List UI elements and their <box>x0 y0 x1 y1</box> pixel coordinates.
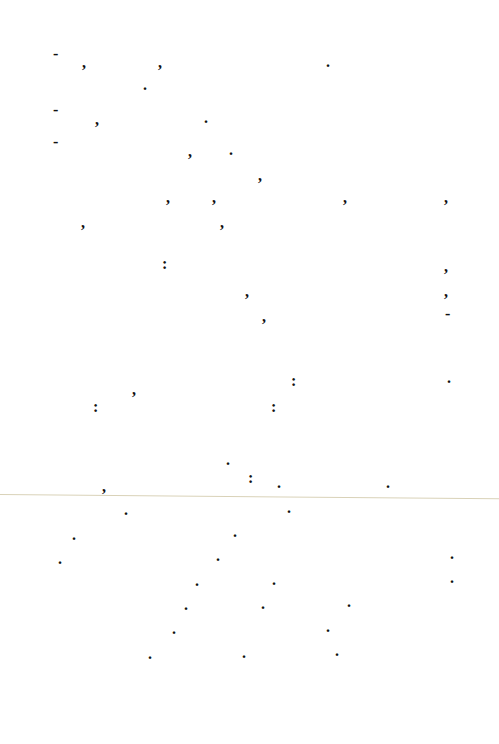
punctuation-mark: , <box>81 215 85 231</box>
punctuation-mark: . <box>287 500 291 516</box>
punctuation-mark: , <box>262 309 266 325</box>
punctuation-mark: : <box>291 373 296 389</box>
punctuation-mark: . <box>272 572 276 588</box>
punctuation-mark: . <box>143 77 147 93</box>
punctuation-mark: , <box>102 479 106 495</box>
punctuation-mark: , <box>220 215 224 231</box>
punctuation-mark: . <box>195 573 199 589</box>
punctuation-mark: . <box>204 110 208 126</box>
punctuation-mark: , <box>95 112 99 128</box>
punctuation-mark: - <box>53 102 58 118</box>
punctuation-mark: . <box>326 54 330 70</box>
punctuation-mark: . <box>184 597 188 613</box>
punctuation-mark: : <box>93 399 98 415</box>
punctuation-mark: , <box>212 190 216 206</box>
punctuation-mark: . <box>347 594 351 610</box>
punctuation-mark: , <box>258 168 262 184</box>
horizontal-rule <box>0 494 499 499</box>
punctuation-mark: , <box>444 190 448 206</box>
punctuation-mark: . <box>335 643 339 659</box>
punctuation-mark: , <box>444 259 448 275</box>
punctuation-mark: . <box>233 524 237 540</box>
punctuation-mark: . <box>261 596 265 612</box>
punctuation-mark: , <box>166 190 170 206</box>
punctuation-mark: , <box>444 284 448 300</box>
punctuation-mark: : <box>271 399 276 415</box>
punctuation-mark: - <box>445 306 450 322</box>
punctuation-mark: . <box>226 452 230 468</box>
punctuation-mark: . <box>148 646 152 662</box>
punctuation-mark: . <box>447 370 451 386</box>
punctuation-mark: . <box>172 621 176 637</box>
punctuation-mark: , <box>158 55 162 71</box>
punctuation-mark: . <box>277 475 281 491</box>
punctuation-mark: . <box>242 645 246 661</box>
punctuation-mark: - <box>53 134 58 150</box>
punctuation-mark: . <box>326 619 330 635</box>
punctuation-mark: , <box>245 284 249 300</box>
punctuation-mark: . <box>58 551 62 567</box>
punctuation-mark: , <box>188 144 192 160</box>
punctuation-mark: : <box>248 470 253 486</box>
punctuation-mark: . <box>216 548 220 564</box>
punctuation-mark: . <box>124 502 128 518</box>
punctuation-mark: , <box>82 55 86 71</box>
punctuation-mark: . <box>450 570 454 586</box>
document-page: -,,..-,.-,.,,,,,,,:,,,,-:.,::.:..,......… <box>0 0 499 744</box>
punctuation-mark: . <box>72 527 76 543</box>
punctuation-mark: . <box>450 546 454 562</box>
punctuation-mark: : <box>162 256 167 272</box>
punctuation-mark: . <box>386 475 390 491</box>
punctuation-mark: - <box>53 46 58 62</box>
punctuation-mark: , <box>343 190 347 206</box>
punctuation-mark: . <box>229 142 233 158</box>
punctuation-mark: , <box>132 382 136 398</box>
